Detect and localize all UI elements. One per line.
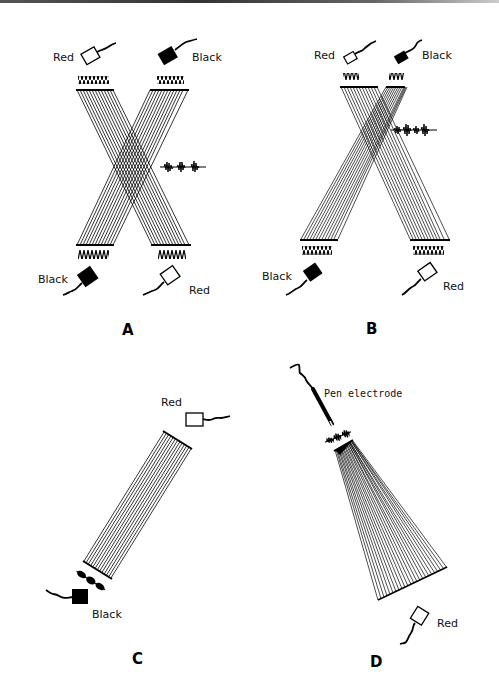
electrode-red-top-left <box>81 43 116 65</box>
electrode-red-bottom-right <box>143 266 180 295</box>
lead-wire-icon <box>402 279 421 295</box>
panel-label: B <box>366 320 377 338</box>
interference-waveform-icon <box>391 124 437 136</box>
electrode-pad-icon <box>158 46 178 65</box>
electrode-label: Red <box>443 280 464 293</box>
electrode-label: Black <box>192 51 222 64</box>
ac-waveform-icon <box>78 250 109 259</box>
electrode-label: Black <box>92 608 122 621</box>
electrode-label: Red <box>53 51 74 64</box>
interference-waveform-icon <box>160 161 206 172</box>
electrode-label: Black <box>262 270 292 283</box>
panel-label: D <box>370 653 382 671</box>
electrode-pad-icon <box>186 413 203 426</box>
lead-wire-icon <box>290 365 314 390</box>
lead-wire-icon <box>46 590 72 598</box>
electrode-pad-icon <box>72 589 88 604</box>
lead-wire-icon <box>175 39 197 50</box>
current-beam-fan <box>335 441 447 600</box>
lead-wire-icon <box>143 282 164 295</box>
ac-waveform-icon <box>158 250 186 259</box>
electrode-pad-icon <box>418 262 437 280</box>
electrode-label: Red <box>189 284 210 297</box>
lead-wire-icon <box>97 43 116 52</box>
lead-wire-icon <box>400 623 415 644</box>
panel-a: Red Black Black Red A <box>38 39 222 339</box>
electrode-black-bottom-left <box>63 266 99 295</box>
lead-wire-icon <box>355 41 376 54</box>
current-beam-parallel <box>84 432 191 578</box>
electrode-label: Red <box>437 617 458 630</box>
electrode-label: Black <box>38 273 68 286</box>
electrode-label: Red <box>161 396 182 409</box>
electrode-red-top-left <box>344 41 376 64</box>
electrode-label: Black <box>422 49 452 62</box>
electrode-pad-icon <box>81 47 100 65</box>
ac-waveform-icon <box>302 246 332 255</box>
ac-waveform-icon <box>78 76 109 84</box>
ac-waveform-icon <box>413 246 444 255</box>
panel-d: Pen electrode Red D <box>290 365 458 671</box>
electrode-black-bottom-left <box>46 589 88 604</box>
electrode-label: Pen electrode <box>324 388 402 399</box>
ac-waveform-icon <box>343 73 359 80</box>
electrode-pad-icon <box>303 262 323 281</box>
electrode-red-top-right <box>186 413 230 426</box>
electrode-pad-icon <box>410 606 428 625</box>
ac-waveform-icon <box>389 73 404 80</box>
electrotherapy-figure: Red Black Black Red A <box>0 0 499 691</box>
lead-wire-icon <box>405 40 422 53</box>
panel-b: Red Black Black Red B <box>262 40 464 338</box>
electrode-red-bottom-right <box>402 262 437 295</box>
lead-wire-icon <box>203 416 230 420</box>
panel-label: C <box>132 650 143 668</box>
electrode-black-top-right <box>394 40 422 64</box>
electrode-label: Red <box>314 49 335 62</box>
panel-label: A <box>122 321 134 339</box>
electrode-red-bottom-right <box>400 606 429 644</box>
ac-waveform-icon <box>157 76 184 84</box>
panel-c: Red Black C <box>46 396 230 668</box>
